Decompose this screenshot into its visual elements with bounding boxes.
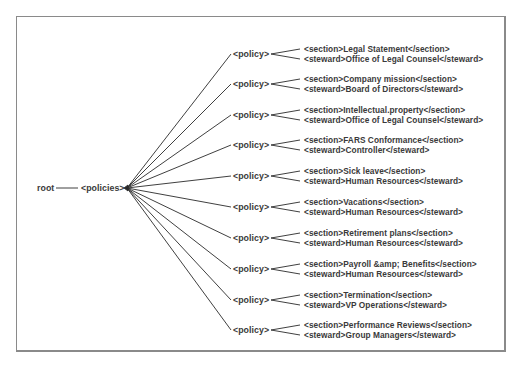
section-leaf: <section>Vacations</section>: [304, 197, 424, 207]
section-leaf: <section>Performance Reviews</section>: [304, 320, 472, 330]
steward-leaf: <steward>Human Resources</steward>: [304, 176, 463, 186]
section-leaf: <section>Company mission</section>: [304, 74, 457, 84]
steward-leaf: <steward>Office of Legal Counsel</stewar…: [304, 54, 483, 64]
section-leaf: <section>Intellectual.property</section>: [304, 105, 465, 115]
steward-leaf: <steward>Controller</steward>: [304, 145, 430, 155]
policy-node: <policy>: [233, 171, 269, 181]
policy-node: <policy>: [233, 295, 269, 305]
steward-leaf: <steward>Human Resources</steward>: [304, 238, 463, 248]
section-leaf: <section>Sick leave</section>: [304, 166, 425, 176]
policy-node: <policy>: [233, 110, 269, 120]
section-leaf: <section>Retirement plans</section>: [304, 228, 453, 238]
steward-leaf: <steward>Group Managers</steward>: [304, 330, 456, 340]
section-leaf: <section>Termination</section>: [304, 290, 432, 300]
policies-node: <policies>: [81, 183, 125, 193]
steward-leaf: <steward>Human Resources</steward>: [304, 269, 463, 279]
policy-node: <policy>: [233, 140, 269, 150]
policy-node: <policy>: [233, 49, 269, 59]
policy-node: <policy>: [233, 202, 269, 212]
steward-leaf: <steward>Board of Directors</steward>: [304, 84, 463, 94]
steward-leaf: <steward>VP Operations</steward>: [304, 300, 447, 310]
steward-leaf: <steward>Office of Legal Counsel</stewar…: [304, 115, 483, 125]
steward-leaf: <steward>Human Resources</steward>: [304, 207, 463, 217]
root-node: root: [37, 183, 54, 193]
policy-node: <policy>: [233, 264, 269, 274]
section-leaf: <section>FARS Conformance</section>: [304, 135, 463, 145]
section-leaf: <section>Payroll &amp; Benefits</section…: [304, 259, 477, 269]
policy-node: <policy>: [233, 79, 269, 89]
section-leaf: <section>Legal Statement</section>: [304, 44, 450, 54]
policy-node: <policy>: [233, 233, 269, 243]
policy-node: <policy>: [233, 325, 269, 335]
